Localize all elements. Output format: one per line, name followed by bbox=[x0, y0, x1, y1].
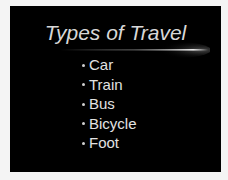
list-item: Car bbox=[82, 55, 137, 75]
list-item: Bicycle bbox=[82, 114, 137, 134]
bullet-icon bbox=[82, 83, 85, 86]
bullet-icon bbox=[82, 142, 85, 145]
bullet-label: Bicycle bbox=[89, 114, 137, 134]
list-item: Foot bbox=[82, 133, 137, 153]
presentation-slide: Types of Travel Car Train Bus Bicycle Fo… bbox=[10, 6, 221, 172]
list-item: Train bbox=[82, 75, 137, 95]
bullet-list: Car Train Bus Bicycle Foot bbox=[82, 55, 137, 153]
bullet-label: Bus bbox=[89, 94, 115, 114]
slide-title: Types of Travel bbox=[10, 21, 221, 45]
bullet-icon bbox=[82, 103, 85, 106]
bullet-label: Train bbox=[89, 75, 123, 95]
bullet-icon bbox=[82, 64, 85, 67]
list-item: Bus bbox=[82, 94, 137, 114]
bullet-icon bbox=[82, 122, 85, 125]
bullet-label: Foot bbox=[89, 133, 119, 153]
bullet-label: Car bbox=[89, 55, 113, 75]
